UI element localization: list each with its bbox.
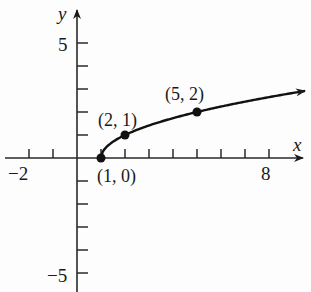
y-tick-label-neg5: −5 — [47, 265, 67, 286]
x-tick-label-8: 8 — [261, 163, 271, 184]
graph-figure: y x 5 −5 −2 8 (1, 0) (2, 1) (5, 2) — [0, 0, 311, 292]
data-point — [193, 108, 202, 117]
point-label-2-1: (2, 1) — [98, 110, 137, 131]
y-axis-label: y — [56, 3, 67, 24]
data-point — [121, 131, 130, 140]
graph-svg: y x 5 −5 −2 8 (1, 0) (2, 1) (5, 2) — [0, 0, 311, 292]
data-point — [97, 154, 106, 163]
x-axis-label: x — [292, 134, 302, 155]
x-tick-label-neg2: −2 — [8, 163, 28, 184]
point-label-5-2: (5, 2) — [165, 84, 204, 105]
point-label-1-0: (1, 0) — [97, 166, 136, 187]
x-axis-ticks — [29, 149, 269, 158]
y-tick-label-5: 5 — [58, 34, 68, 55]
